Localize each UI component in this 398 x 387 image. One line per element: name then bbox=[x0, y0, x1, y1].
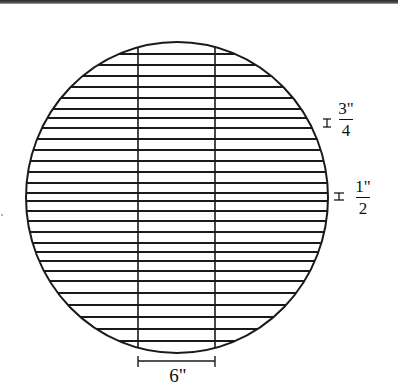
fraction-numerator: 1" bbox=[355, 178, 371, 195]
fraction-half-inch: 1" 2 bbox=[355, 178, 371, 217]
spacing-marker-three-quarter bbox=[323, 119, 331, 127]
fraction-bar bbox=[339, 119, 353, 120]
circular-grate-diagram bbox=[0, 0, 398, 387]
circle-outline bbox=[26, 42, 328, 353]
fraction-numerator: 3" bbox=[338, 100, 354, 117]
horizontal-bars bbox=[24, 54, 330, 341]
spacing-marker-half bbox=[334, 193, 344, 200]
fraction-bar bbox=[356, 197, 370, 198]
fraction-denominator: 4 bbox=[338, 122, 354, 139]
fraction-three-quarter-inch: 3" 4 bbox=[338, 100, 354, 139]
fraction-denominator: 2 bbox=[355, 200, 371, 217]
width-label-six-inch: 6" bbox=[160, 366, 196, 385]
